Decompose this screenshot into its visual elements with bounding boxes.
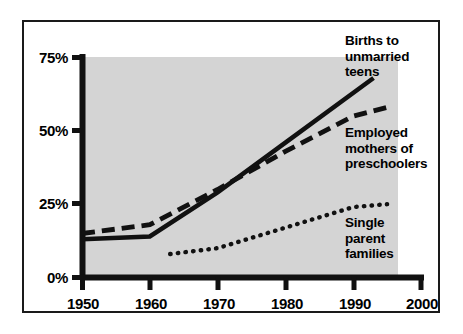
series-label-births-to-unmarried-teens: Births to unmarried teens [345, 33, 409, 80]
series-label-line: mothers of [345, 141, 427, 157]
x-tick-label-1980: 1980 [256, 295, 318, 312]
series-label-employed-mothers-of-preschoolers: Employed mothers of preschoolers [345, 125, 427, 172]
series-label-line: teens [345, 64, 409, 80]
series-label-line: parent [345, 231, 394, 247]
series-label-line: Employed [345, 125, 427, 141]
y-tick-label-75: 75% [18, 49, 68, 66]
x-tick-label-1970: 1970 [188, 295, 250, 312]
series-label-line: Births to [345, 33, 409, 49]
x-tick-label-1950: 1950 [52, 295, 114, 312]
series-label-line: unmarried [345, 49, 409, 65]
chart-figure: 75% 50% 25% 0% 1950 1960 1970 1980 1990 … [0, 0, 463, 334]
series-label-line: families [345, 246, 394, 262]
y-tick-label-0: 0% [18, 269, 68, 286]
x-tick-label-1960: 1960 [120, 295, 182, 312]
y-tick-label-50: 50% [18, 122, 68, 139]
series-label-line: Single [345, 215, 394, 231]
series-label-single-parent-families: Single parent families [345, 215, 394, 262]
y-tick-label-25: 25% [18, 195, 68, 212]
series-label-line: preschoolers [345, 156, 427, 172]
x-tick-label-2000: 2000 [391, 295, 453, 312]
x-tick-label-1990: 1990 [324, 295, 386, 312]
